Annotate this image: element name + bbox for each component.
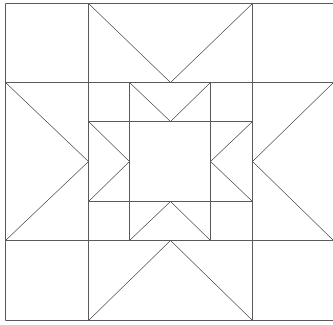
diagram-line (6, 83, 89, 162)
diagram-line (89, 241, 171, 321)
diagram-line (171, 241, 253, 321)
diagram-line (89, 4, 171, 83)
diagram-line (171, 4, 253, 83)
diagram-line (211, 122, 253, 162)
diagram-line (211, 162, 253, 202)
diagram-line (89, 122, 130, 162)
diagram-line (171, 83, 211, 122)
quilt-star-diagram (0, 0, 333, 325)
diagram-line (89, 162, 130, 202)
diagram-line (6, 162, 89, 241)
diagram-line (253, 83, 333, 162)
diagram-line (171, 202, 211, 241)
diagram-line (130, 83, 171, 122)
diagram-line (253, 162, 333, 241)
diagram-line (130, 202, 171, 241)
